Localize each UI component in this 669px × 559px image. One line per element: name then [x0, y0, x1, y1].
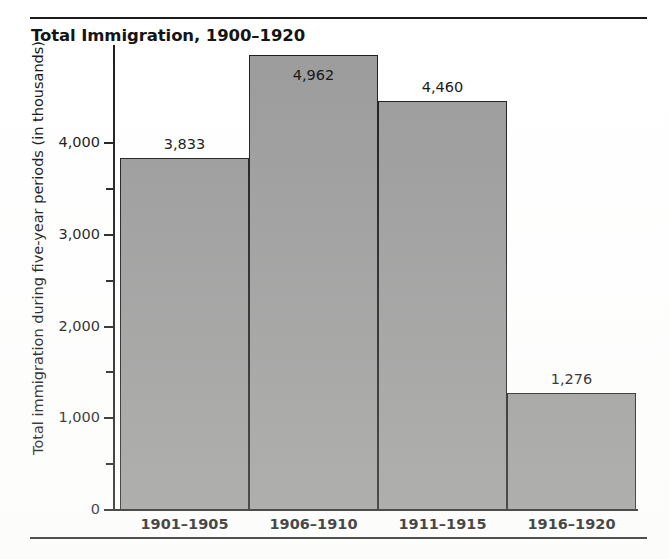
y-axis-tick-major	[104, 234, 114, 236]
bar-value-label: 1,276	[507, 371, 636, 387]
y-axis-tick-minor	[106, 371, 114, 373]
bar-1911-1915	[378, 101, 507, 510]
y-axis-tick-major	[104, 509, 114, 511]
y-axis-tick-label: 0	[36, 501, 100, 517]
y-axis-tick-minor	[106, 280, 114, 282]
bar-value-label: 3,833	[120, 136, 249, 152]
y-axis-tick-label: 2,000	[36, 318, 100, 334]
y-axis-tick-major	[104, 417, 114, 419]
chart-title: Total Immigration, 1900–1920	[31, 26, 305, 45]
bar-1906-1910	[249, 55, 378, 510]
y-axis-title: Total immigration during five-year perio…	[30, 38, 46, 458]
bar-value-label: 4,962	[249, 67, 378, 83]
y-axis-tick-label: 4,000	[36, 134, 100, 150]
y-axis-tick-minor	[106, 188, 114, 190]
figure-top-rule	[30, 17, 647, 19]
y-axis-tick-major	[104, 142, 114, 144]
y-axis-tick-minor	[106, 463, 114, 465]
y-axis-tick-label: 3,000	[36, 226, 100, 242]
immigration-bar-chart-figure: Total Immigration, 1900–1920 Total immig…	[0, 0, 669, 559]
x-axis-tick-label: 1916–1920	[507, 516, 636, 532]
bar-1916-1920	[507, 393, 636, 510]
y-axis-line	[113, 45, 115, 510]
figure-bottom-rule	[30, 537, 647, 539]
x-axis-tick-label: 1901–1905	[120, 516, 249, 532]
y-axis-tick-major	[104, 326, 114, 328]
y-axis-tick-label: 1,000	[36, 409, 100, 425]
x-axis-tick-label: 1906–1910	[249, 516, 378, 532]
bar-value-label: 4,460	[378, 79, 507, 95]
x-axis-tick-label: 1911–1915	[378, 516, 507, 532]
bar-1901-1905	[120, 158, 249, 510]
